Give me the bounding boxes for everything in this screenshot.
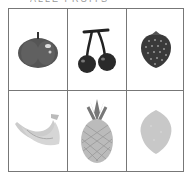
strawberry-icon bbox=[139, 30, 173, 70]
lemon-icon bbox=[139, 108, 173, 156]
tomato-icon bbox=[16, 30, 60, 70]
grid-cell-strawberry[interactable] bbox=[127, 9, 185, 91]
bananas-icon bbox=[13, 112, 63, 152]
header-text: ALLE FRUITS bbox=[30, 0, 170, 2]
grid-cell-lemon[interactable] bbox=[127, 91, 185, 173]
fruit-grid bbox=[8, 8, 184, 172]
grid-cell-pineapple[interactable] bbox=[68, 91, 126, 173]
pineapple-icon bbox=[78, 99, 116, 165]
grid-cell-bananas[interactable] bbox=[9, 91, 67, 173]
cherries-icon bbox=[74, 26, 120, 74]
grid-cell-cherries[interactable] bbox=[68, 9, 126, 91]
grid-cell-tomato[interactable] bbox=[9, 9, 67, 91]
